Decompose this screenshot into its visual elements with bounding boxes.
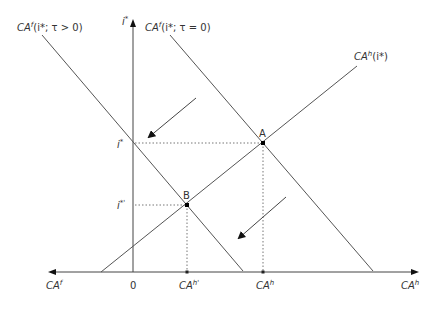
label-foreign-tax: CAf(i*; τ > 0) [17, 22, 83, 33]
point-label-B: B [183, 191, 190, 201]
tick-label-y-low: i*' [117, 200, 125, 211]
point-label-A: A [259, 129, 266, 139]
shift-arrow-upper [149, 98, 196, 137]
point-A [261, 141, 265, 145]
vertical-axis-label: i* [122, 16, 128, 27]
right-axis-label: CAh [401, 280, 419, 291]
tick-x-low [186, 271, 189, 274]
curve-home [101, 66, 357, 272]
tick-x-high [262, 271, 265, 274]
tick-label-y-high: i* [117, 139, 123, 150]
label-foreign-notax: CAf(i*; τ = 0) [145, 22, 211, 33]
tick-label-x-high: CAh [256, 280, 274, 291]
curve-foreign-tax [42, 35, 243, 271]
diagram-canvas [0, 0, 429, 324]
label-home: CAh(i*) [354, 51, 388, 62]
left-axis-label: CAf [46, 280, 62, 291]
curve-foreign-notax [170, 35, 373, 271]
right-arrowhead-icon [411, 269, 419, 275]
origin-label: 0 [130, 281, 136, 291]
left-arrowhead-icon [48, 269, 56, 275]
point-B [185, 203, 189, 207]
tick-label-x-low: CAh' [179, 280, 199, 291]
up-arrowhead-icon [130, 19, 136, 27]
